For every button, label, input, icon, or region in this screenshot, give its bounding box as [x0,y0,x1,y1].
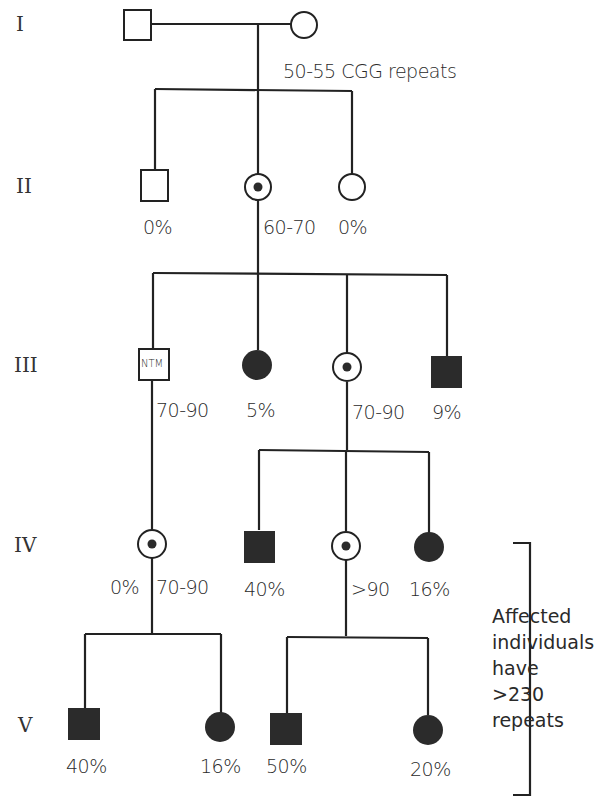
gen2-carrier-repeats: 60-70 [263,218,316,237]
gen4-carrier2-repeats: >90 [351,580,390,599]
gen3-affected-female [242,350,272,380]
gen3-carrier-repeats: 70-90 [352,403,405,422]
gen4-affected-male [244,531,275,563]
generation-label-3: III [14,353,38,377]
gen5-male1-pct: 40% [66,757,107,776]
gen1-male [124,10,151,40]
gen4-affected-female-pct: 16% [409,580,450,599]
gen4-carrier1-repeats: 70-90 [156,578,209,597]
gen5-affected-male-2 [270,713,302,745]
gen2-female [339,174,365,200]
gen1-repeats-label: 50-55 CGG repeats [283,62,456,81]
generation-label-5: V [18,713,32,737]
gen3-affected-male [431,356,462,388]
affected-note: Affected individuals have >230 repeats [492,603,594,733]
gen5-male2-pct: 50% [266,757,307,776]
generation-label-4: IV [14,533,36,557]
gen4-affected-female [414,532,444,562]
gen5-female2-pct: 20% [410,760,451,779]
gen5-affected-female-1 [205,712,235,742]
gen5-female1-pct: 16% [200,757,241,776]
gen4-carrier1-pct: 0% [110,578,139,597]
generation-label-1: I [16,12,24,36]
gen3-affected-female-pct: 5% [246,401,275,420]
generation-label-2: II [16,174,32,198]
ntm-label: NTM [141,359,163,369]
gen2-female-pct: 0% [338,218,367,237]
gen4-affected-male-pct: 40% [244,580,285,599]
gen5-affected-male-1 [68,708,100,740]
gen1-female [291,12,317,38]
gen5-affected-female-2 [413,715,443,745]
gen2-male-pct: 0% [143,218,172,237]
gen3-ntm-repeats: 70-90 [156,401,209,420]
gen3-affected-male-pct: 9% [432,403,461,422]
gen2-male [141,170,168,201]
